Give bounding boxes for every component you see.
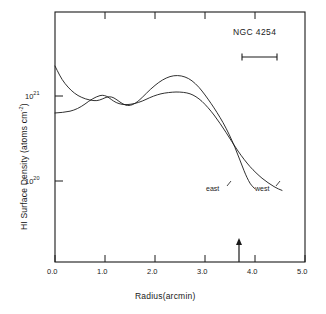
series-line-west [55,92,282,190]
x-tick-label-4: 4.0 [247,268,257,276]
radius-marker-arrow-icon [236,238,242,262]
x-axis-ticks [55,255,305,262]
x-tick-label-5: 5.0 [297,268,307,276]
figure-container: HI Surface Density (atoms cm-2) Radius(a… [0,0,326,314]
x-tick-label-2: 2.0 [147,268,157,276]
west-label-leader [276,181,280,186]
series-label-west: west [255,185,269,192]
series-line-east [55,66,255,189]
x-tick-label-1: 1.0 [97,268,107,276]
y-tick-1e20-exp: 20 [33,175,39,181]
series-label-east: east [206,185,219,192]
y-axis-title: HI Surface Density (atoms cm-2) [19,103,28,230]
x-axis-ticks-top [105,12,255,19]
x-tick-label-3: 3.0 [197,268,207,276]
x-tick-label-0: 0.0 [47,268,57,276]
x-axis-title: Radius(arcmin) [135,292,195,301]
object-name-label: NGC 4254 [233,28,276,37]
beam-scale-bar [242,54,277,61]
y-tick-label-1e20: 1020 [25,176,39,185]
y-axis-title-paren: ) [19,103,29,106]
y-axis-title-text: HI Surface Density (atoms cm [19,112,29,231]
east-label-leader [227,181,231,186]
y-tick-label-1e21: 1021 [25,91,39,100]
axes-frame [55,12,305,262]
y-tick-1e21-exp: 21 [33,90,39,96]
y-axis-ticks [55,96,63,181]
y-axis-title-exponent: -2 [18,106,24,111]
